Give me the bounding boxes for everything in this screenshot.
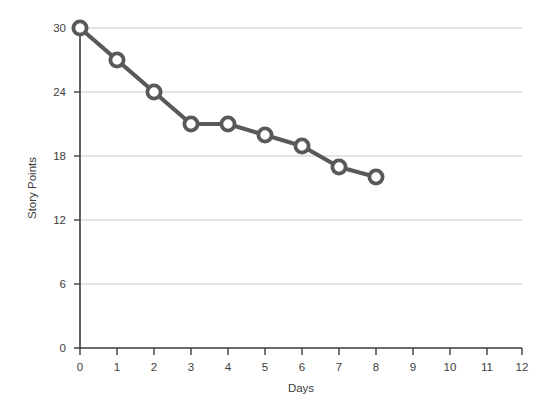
y-tick-label-30: 30 (53, 22, 66, 34)
data-point-day3[interactable] (184, 117, 197, 130)
data-point-day6[interactable] (295, 139, 308, 152)
chart-canvas: 30 24 18 12 6 0 0 1 2 3 (0, 0, 552, 410)
x-tick-label-6: 6 (299, 361, 305, 373)
x-tick-label-7: 7 (336, 361, 342, 373)
burndown-line (80, 28, 376, 177)
x-tick-label-2: 2 (151, 361, 157, 373)
data-point-day2[interactable] (147, 85, 160, 98)
x-tick-label-8: 8 (373, 361, 379, 373)
data-point-day5[interactable] (258, 128, 271, 141)
x-tick-label-11: 11 (481, 361, 493, 373)
data-point-markers (73, 21, 382, 183)
y-tick-label-6: 6 (60, 278, 66, 290)
data-point-day7[interactable] (332, 160, 345, 173)
x-axis-title: Days (288, 382, 314, 394)
y-tick-label-0: 0 (60, 342, 66, 354)
y-tick-label-12: 12 (53, 214, 66, 226)
burndown-chart: 30 24 18 12 6 0 0 1 2 3 (0, 0, 552, 410)
y-axis-tick-labels: 30 24 18 12 6 0 (53, 22, 66, 354)
x-tick-label-12: 12 (516, 361, 529, 373)
y-axis-title: Story Points (26, 157, 38, 219)
data-point-day4[interactable] (221, 117, 234, 130)
x-axis-tick-labels: 0 1 2 3 4 5 6 7 8 9 10 11 12 (77, 361, 529, 373)
y-axis-ticks (74, 28, 80, 348)
data-point-day0[interactable] (73, 21, 86, 34)
gridlines (80, 28, 522, 284)
x-tick-label-5: 5 (262, 361, 268, 373)
x-tick-label-10: 10 (444, 361, 457, 373)
data-point-day8[interactable] (369, 170, 382, 183)
y-tick-label-18: 18 (53, 150, 66, 162)
x-tick-label-3: 3 (188, 361, 194, 373)
data-point-day1[interactable] (110, 53, 123, 66)
x-tick-label-1: 1 (114, 361, 120, 373)
y-tick-label-24: 24 (53, 86, 66, 98)
x-tick-label-9: 9 (410, 361, 416, 373)
x-tick-label-4: 4 (225, 361, 232, 373)
x-axis-ticks (80, 348, 522, 355)
x-tick-label-0: 0 (77, 361, 83, 373)
